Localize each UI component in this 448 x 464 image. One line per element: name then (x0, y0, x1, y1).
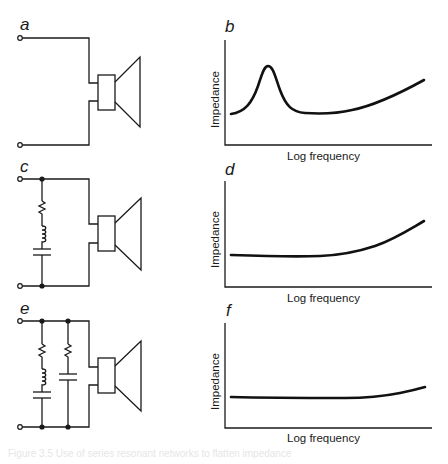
circuit-e: e (18, 299, 141, 430)
impedance-curve-b (231, 66, 424, 114)
resistor-icon (39, 201, 45, 226)
wire-top (22, 321, 98, 367)
x-axis-label: Log frequency (287, 150, 360, 162)
wire-bottom (22, 385, 98, 427)
terminal-top-icon (18, 177, 23, 182)
terminal-top-icon (18, 36, 23, 41)
inductor-icon (42, 226, 46, 249)
inductor-icon (42, 369, 46, 392)
resistor-icon (39, 344, 45, 369)
terminal-bottom-icon (18, 143, 23, 148)
capacitor-icon (33, 249, 51, 255)
loudspeaker-icon (98, 57, 140, 127)
wire-bottom (22, 101, 98, 145)
panel-label-f: f (226, 301, 233, 320)
loudspeaker-icon (98, 198, 141, 270)
impedance-curve-d (231, 221, 424, 256)
plot-d: d Impedance Log frequency (209, 160, 432, 304)
wire-top (22, 179, 98, 224)
axes (225, 323, 432, 428)
plot-f: f Impedance Log frequency (209, 301, 432, 444)
resistor-icon (65, 344, 71, 374)
terminal-bottom-icon (18, 284, 23, 289)
panel-label-b: b (225, 17, 234, 36)
figure-canvas: a c e (0, 0, 448, 464)
y-axis-label: Impedance (209, 211, 221, 268)
panel-label-d: d (225, 160, 235, 179)
panel-label-c: c (20, 157, 29, 176)
loudspeaker-icon (98, 341, 141, 411)
figure-caption: Figure 3.5 Use of series resonant networ… (8, 448, 440, 459)
capacitor-icon (59, 374, 77, 380)
plot-b: b Impedance Log frequency (209, 17, 432, 162)
x-axis-label: Log frequency (287, 292, 360, 304)
capacitor-icon (33, 392, 51, 398)
circuit-c: c (18, 157, 141, 289)
panel-label-a: a (20, 15, 29, 34)
panel-label-e: e (20, 299, 29, 318)
y-axis-label: Impedance (209, 71, 221, 128)
circuit-a: a (18, 15, 140, 147)
wire-top (22, 38, 98, 83)
terminal-bottom-icon (18, 425, 23, 430)
impedance-curve-f (231, 387, 425, 398)
terminal-top-icon (18, 319, 23, 324)
y-axis-label: Impedance (209, 353, 221, 410)
x-axis-label: Log frequency (287, 432, 360, 444)
